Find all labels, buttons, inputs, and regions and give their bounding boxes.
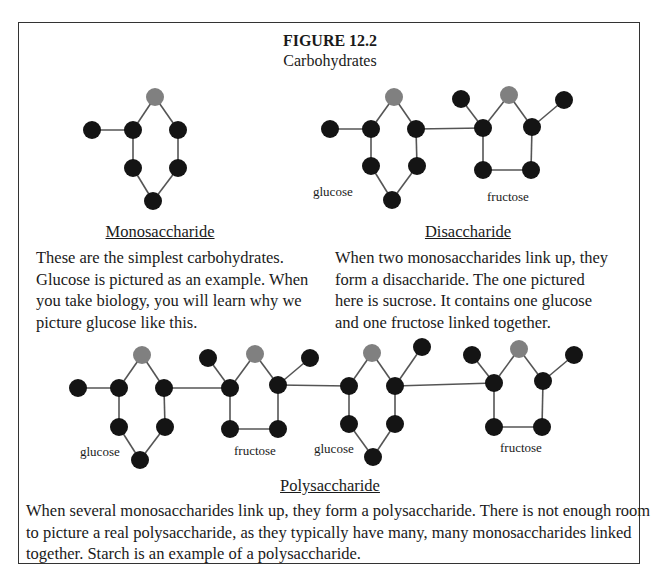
carbon-atom-circle [386,415,404,433]
fructose-label: fructose [234,443,276,459]
carbon-atom-circle [131,451,149,469]
oxygen-atom-circle [385,88,403,106]
carbon-atom-circle [321,120,339,138]
fructose-label: fructose [487,189,529,205]
bond-line [395,383,494,386]
carbon-atom-circle [221,379,239,397]
carbon-atom-circle [364,448,382,466]
carbon-atom-circle [413,338,431,356]
text-line: together. Starch is an example of a poly… [26,543,650,565]
text-line: When several monosaccharides link up, th… [26,500,650,522]
carbon-atom-circle [533,418,551,436]
fructose-label: fructose [500,440,542,456]
carbon-atom-circle [463,346,481,364]
carbon-atom-circle [301,349,319,367]
carbon-atom-circle [156,418,174,436]
carbon-atom-circle [534,372,552,390]
carbon-atom-circle [221,420,239,438]
oxygen-atom-circle [500,86,518,104]
monosaccharide-description: These are the simplest carbohydrates. Gl… [36,247,308,333]
carbon-atom-circle [485,418,503,436]
disaccharide-description: When two monosaccharides link up, they f… [335,247,608,333]
carbon-atom-circle [169,159,187,177]
carbon-atom-circle [565,346,583,364]
polysaccharide-description: When several monosaccharides link up, th… [26,500,650,565]
carbon-atom-circle [407,120,425,138]
carbon-atom-circle [340,415,358,433]
text-line: you take biology, you will learn why we [36,290,308,312]
text-line: When two monosaccharides link up, they [335,247,608,269]
monosaccharide-heading: Monosaccharide [60,222,260,242]
bond-line [278,385,349,386]
carbon-atom-circle [523,118,541,136]
carbon-atom-circle [452,90,470,108]
carbon-atom-circle [124,159,142,177]
carbon-atom-circle [340,377,358,395]
carbon-atom-circle [69,379,87,397]
carbon-atom-circle [485,374,503,392]
carbon-atom-circle [110,379,128,397]
text-line: form a disaccharide. The one pictured [335,269,608,291]
bond-line [416,128,483,129]
carbon-atom-circle [474,161,492,179]
glucose-label: glucose [80,444,120,460]
carbon-atom-circle [362,157,380,175]
carbon-atom-circle [474,119,492,137]
oxygen-atom-circle [363,344,381,362]
text-line: to picture a real polysaccharide, as the… [26,522,650,544]
glucose-label: glucose [313,184,353,200]
carbon-atom-circle [144,192,162,210]
disaccharide-heading: Disaccharide [368,222,568,242]
glucose-label: glucose [314,441,354,457]
carbon-atom-circle [555,91,573,109]
text-line: here is sucrose. It contains one glucose [335,290,608,312]
carbon-atom-circle [362,120,380,138]
text-line: Glucose is pictured as an example. When [36,269,308,291]
carbon-atom-circle [269,420,287,438]
polysaccharide-heading: Polysaccharide [230,476,430,496]
oxygen-atom-circle [133,346,151,364]
carbon-atom-circle [522,161,540,179]
carbon-atom-circle [269,376,287,394]
oxygen-atom-circle [146,88,164,106]
text-line: and one fructose linked together. [335,312,608,334]
carbon-atom-circle [155,379,173,397]
oxygen-atom-circle [510,340,528,358]
carbon-atom-circle [199,349,217,367]
carbon-atom-circle [383,191,401,209]
text-line: These are the simplest carbohydrates. [36,247,308,269]
carbon-atom-circle [408,157,426,175]
carbon-atom-circle [169,121,187,139]
text-line: picture glucose like this. [36,312,308,334]
carbon-atom-circle [83,121,101,139]
carbon-atom-circle [124,121,142,139]
carbon-atom-circle [110,418,128,436]
oxygen-atom-circle [246,345,264,363]
carbon-atom-circle [386,377,404,395]
